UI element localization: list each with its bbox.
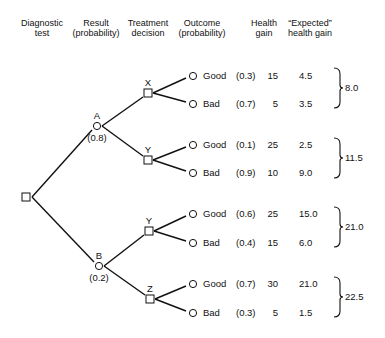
result-chance-node — [95, 262, 102, 269]
result-probability: (0.8) — [82, 132, 112, 143]
expected-health-gain: 21.0 — [299, 278, 323, 289]
health-gain: 5 — [262, 307, 278, 318]
outcome-label: Good — [203, 139, 226, 150]
outcome-label: Bad — [203, 98, 220, 109]
outcome-probability: (0.4) — [236, 237, 256, 248]
expected-health-gain: 1.5 — [299, 307, 323, 318]
result-label: B — [84, 250, 114, 261]
total-expected-gain: 21.0 — [345, 221, 364, 232]
outcome-label: Good — [203, 208, 226, 219]
branch-line — [154, 231, 186, 241]
health-gain: 15 — [262, 70, 278, 81]
outcome-probability: (0.6) — [236, 208, 256, 219]
outcome-label: Good — [203, 278, 226, 289]
health-gain: 10 — [262, 167, 278, 178]
expected-health-gain: 6.0 — [299, 237, 323, 248]
treatment-decision-node — [146, 295, 154, 303]
outcome-probability: (0.7) — [236, 278, 256, 289]
column-header-line2: health gain — [270, 28, 350, 38]
outcome-chance-node — [189, 169, 196, 176]
outcome-chance-node — [189, 141, 196, 148]
outcome-label: Bad — [203, 167, 220, 178]
treatment-decision-node — [145, 227, 153, 235]
treatment-label: X — [133, 77, 163, 88]
treatment-label: Z — [135, 283, 165, 294]
total-expected-gain: 11.5 — [345, 152, 363, 163]
column-header-line1: “Expected” — [270, 18, 350, 28]
treatment-label: Y — [133, 144, 163, 155]
outcome-chance-node — [189, 239, 196, 246]
health-gain: 5 — [262, 98, 278, 109]
treatment-decision-node — [144, 89, 152, 97]
outcome-chance-node — [189, 72, 196, 79]
expected-health-gain: 9.0 — [299, 167, 323, 178]
expected-health-gain: 2.5 — [299, 139, 323, 150]
health-gain: 25 — [262, 139, 278, 150]
outcome-probability: (0.3) — [236, 307, 256, 318]
treatment-decision-node — [144, 156, 152, 164]
health-gain: 25 — [262, 208, 278, 219]
health-gain: 15 — [262, 237, 278, 248]
outcome-probability: (0.3) — [236, 70, 256, 81]
expected-health-gain: 4.5 — [299, 70, 323, 81]
total-expected-gain: 8.0 — [345, 82, 358, 93]
decision-tree — [0, 0, 385, 338]
right-brace — [334, 138, 343, 178]
expected-health-gain: 3.5 — [299, 98, 323, 109]
treatment-label: Y — [134, 215, 164, 226]
branch-line — [155, 299, 186, 311]
right-brace — [334, 68, 343, 108]
outcome-probability: (0.1) — [236, 139, 256, 150]
outcome-chance-node — [189, 100, 196, 107]
health-gain: 30 — [262, 278, 278, 289]
root-decision-node — [22, 193, 30, 201]
result-probability: (0.2) — [84, 272, 114, 283]
total-expected-gain: 22.5 — [345, 291, 364, 302]
outcome-label: Bad — [203, 307, 220, 318]
branch-line — [153, 160, 186, 171]
right-brace — [334, 277, 343, 317]
outcome-probability: (0.7) — [236, 98, 256, 109]
outcome-label: Good — [203, 70, 226, 81]
outcome-chance-node — [189, 210, 196, 217]
expected-health-gain: 15.0 — [299, 208, 323, 219]
result-label: A — [82, 110, 112, 121]
outcome-chance-node — [189, 280, 196, 287]
right-brace — [334, 207, 343, 247]
result-chance-node — [93, 122, 100, 129]
outcome-label: Bad — [203, 237, 220, 248]
outcome-chance-node — [189, 309, 196, 316]
outcome-probability: (0.9) — [236, 167, 256, 178]
branch-line — [153, 93, 186, 102]
